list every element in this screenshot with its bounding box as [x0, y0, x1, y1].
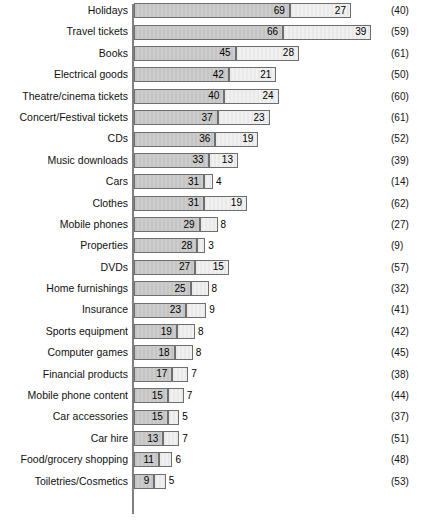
bar-value-secondary: 8	[196, 348, 202, 358]
base-count: (57)	[391, 257, 409, 278]
stacked-bar-chart: Holidays6927(40)Travel tickets6639(59)Bo…	[0, 0, 439, 522]
bar-value-primary: 31	[188, 198, 203, 208]
bar-segment-secondary: 27	[290, 3, 351, 18]
base-count: (38)	[391, 364, 409, 385]
base-count: (41)	[391, 299, 409, 320]
stacked-bar: 155	[134, 410, 179, 425]
stacked-bar: 157	[134, 388, 184, 403]
bar-value-secondary: 23	[253, 113, 268, 123]
bar-segment-secondary: 6	[159, 452, 173, 467]
bar-segment-secondary: 19	[215, 132, 258, 147]
category-label: CDs	[108, 128, 128, 149]
bar-value-primary: 42	[213, 70, 228, 80]
stacked-bar: 137	[134, 431, 179, 446]
bar-segment-secondary: 8	[175, 345, 193, 360]
category-label: Books	[99, 43, 128, 64]
bar-value-secondary: 13	[222, 155, 237, 165]
stacked-bar: 188	[134, 345, 193, 360]
bar-segment-secondary: 9	[186, 303, 206, 318]
base-count: (45)	[391, 342, 409, 363]
stacked-bar: 314	[134, 174, 213, 189]
bar-value-primary: 31	[188, 177, 203, 187]
chart-row: Insurance239(41)	[0, 299, 439, 320]
bar-segment-primary: 40	[134, 89, 224, 104]
stacked-bar: 3119	[134, 196, 247, 211]
category-label: Properties	[80, 235, 128, 256]
category-label: Holidays	[88, 0, 128, 21]
bar-value-primary: 27	[179, 262, 194, 272]
bar-value-primary: 37	[201, 113, 216, 123]
stacked-bar: 2715	[134, 260, 229, 275]
base-count: (40)	[391, 0, 409, 21]
bar-segment-primary: 15	[134, 410, 168, 425]
category-label: Computer games	[47, 342, 128, 363]
bar-value-primary: 23	[170, 305, 185, 315]
stacked-bar: 3619	[134, 132, 258, 147]
base-count: (9)	[391, 235, 403, 256]
bar-segment-secondary: 4	[204, 174, 213, 189]
stacked-bar: 6927	[134, 3, 351, 18]
stacked-bar: 298	[134, 217, 218, 232]
bar-segment-primary: 45	[134, 46, 236, 61]
bar-segment-secondary: 7	[172, 367, 188, 382]
bar-segment-primary: 29	[134, 217, 200, 232]
bar-segment-primary: 18	[134, 345, 175, 360]
category-label: Insurance	[82, 299, 128, 320]
bar-value-secondary: 5	[169, 476, 175, 486]
chart-row: Music downloads3313(39)	[0, 150, 439, 171]
chart-row: Books4528(61)	[0, 43, 439, 64]
bar-segment-primary: 66	[134, 25, 283, 40]
bar-value-secondary: 9	[209, 305, 215, 315]
category-label: Food/grocery shopping	[21, 449, 128, 470]
bar-value-primary: 45	[220, 48, 235, 58]
category-label: Financial products	[43, 364, 128, 385]
bar-value-primary: 28	[181, 241, 196, 251]
bar-value-primary: 33	[192, 155, 207, 165]
bar-segment-primary: 37	[134, 110, 218, 125]
bar-value-primary: 19	[161, 327, 176, 337]
chart-row: Cars314(14)	[0, 171, 439, 192]
stacked-bar: 4221	[134, 67, 276, 82]
chart-row: Mobile phones298(27)	[0, 214, 439, 235]
bar-value-secondary: 15	[213, 262, 228, 272]
category-label: Home furnishings	[46, 278, 128, 299]
base-count: (27)	[391, 214, 409, 235]
category-label: Car hire	[91, 428, 128, 449]
bar-segment-secondary: 5	[154, 474, 165, 489]
base-count: (32)	[391, 278, 409, 299]
bar-value-secondary: 5	[182, 412, 188, 422]
chart-row: Properties283(9)	[0, 235, 439, 256]
bar-value-primary: 18	[159, 348, 174, 358]
stacked-bar: 177	[134, 367, 188, 382]
chart-row: DVDs2715(57)	[0, 257, 439, 278]
bar-value-secondary: 8	[221, 220, 227, 230]
chart-row: CDs3619(52)	[0, 128, 439, 149]
stacked-bar: 95	[134, 474, 166, 489]
bar-value-secondary: 6	[175, 455, 181, 465]
bar-segment-secondary: 8	[200, 217, 218, 232]
stacked-bar: 116	[134, 452, 172, 467]
base-count: (39)	[391, 150, 409, 171]
base-count: (14)	[391, 171, 409, 192]
bar-segment-primary: 27	[134, 260, 195, 275]
bar-segment-primary: 11	[134, 452, 159, 467]
bar-value-secondary: 8	[212, 284, 218, 294]
base-count: (59)	[391, 21, 409, 42]
base-count: (42)	[391, 321, 409, 342]
category-label: Car accessories	[53, 406, 128, 427]
base-count: (37)	[391, 406, 409, 427]
category-label: DVDs	[101, 257, 128, 278]
stacked-bar: 4528	[134, 46, 299, 61]
category-label: Mobile phone content	[28, 385, 128, 406]
bar-value-primary: 69	[274, 6, 289, 16]
bar-segment-primary: 15	[134, 388, 168, 403]
bar-segment-primary: 9	[134, 474, 154, 489]
bar-segment-primary: 28	[134, 238, 197, 253]
bar-segment-primary: 42	[134, 67, 229, 82]
base-count: (61)	[391, 107, 409, 128]
bar-value-secondary: 8	[198, 327, 204, 337]
bar-value-secondary: 28	[283, 48, 298, 58]
bar-segment-primary: 36	[134, 132, 215, 147]
base-count: (52)	[391, 128, 409, 149]
bar-segment-secondary: 15	[195, 260, 229, 275]
